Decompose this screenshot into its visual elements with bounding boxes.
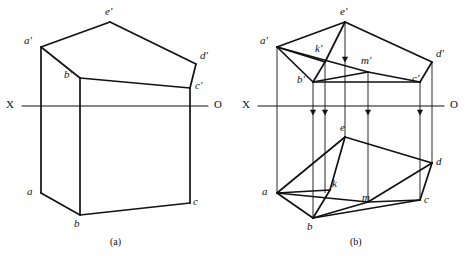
edge-bp-mp-b bbox=[313, 72, 368, 82]
vertex-label-c-b: c bbox=[424, 194, 429, 205]
vertex-label-c-prime-a: c' bbox=[195, 80, 202, 91]
arrowhead-proj-ep-e bbox=[342, 57, 347, 62]
edge-kp-bp-b bbox=[313, 62, 325, 82]
vertex-label-d-prime-b: d' bbox=[436, 48, 444, 59]
edge-a-b-a bbox=[41, 193, 80, 215]
edge-ep-dp-a bbox=[110, 22, 196, 64]
arrowhead-proj-kp-k bbox=[322, 110, 327, 115]
edge-ap-ep-a bbox=[41, 22, 110, 47]
vertex-label-a-a: a bbox=[27, 186, 33, 197]
vertex-label-e-b: e bbox=[340, 122, 345, 133]
edge-dp-cp-b bbox=[420, 62, 432, 82]
vertex-label-a-b: a bbox=[262, 186, 268, 197]
edge-group-a bbox=[41, 22, 196, 215]
vertex-label-b-b: b bbox=[307, 221, 313, 232]
edge-cp-bp-a bbox=[80, 78, 190, 88]
edge-m-d-b bbox=[368, 163, 432, 202]
arrowhead-proj-bp-b bbox=[310, 110, 315, 115]
technical-drawing-svg bbox=[0, 0, 469, 256]
vertex-label-k-prime-b: k' bbox=[315, 43, 322, 54]
arrowhead-proj-cp-c bbox=[417, 110, 422, 115]
vertex-label-m-prime-b: m' bbox=[361, 55, 371, 66]
axis-label-x-b: X bbox=[242, 99, 250, 110]
vertex-label-k-b: k bbox=[332, 178, 337, 189]
axis-label-o-a: O bbox=[214, 99, 222, 110]
vertex-label-e-prime-b: e' bbox=[340, 6, 347, 17]
figure-canvas: a'e'd'c'b'abc a'e'd'c'b'k'm'abcdekm X O … bbox=[0, 0, 469, 256]
vertex-label-b-prime-b: b' bbox=[297, 74, 305, 85]
vertex-label-d-b: d bbox=[436, 156, 442, 167]
axis-label-o-b: O bbox=[450, 99, 458, 110]
caption-a: (a) bbox=[110, 236, 121, 247]
axis-label-x-a: X bbox=[6, 99, 14, 110]
arrowhead-proj-mp-m bbox=[365, 110, 370, 115]
vertex-label-c-prime-b: c' bbox=[412, 73, 419, 84]
edge-bp-ap-a bbox=[41, 47, 80, 78]
edge-b-c-a bbox=[80, 203, 190, 215]
vertex-label-a-prime-a: a' bbox=[24, 35, 32, 46]
edge-ep-dp-b bbox=[345, 22, 432, 62]
vertex-label-b-prime-a: b' bbox=[64, 69, 72, 80]
vertex-label-e-prime-a: e' bbox=[105, 6, 112, 17]
vertex-label-a-prime-b: a' bbox=[260, 35, 268, 46]
edge-a-m-b bbox=[277, 193, 368, 202]
vertex-label-b-a: b bbox=[74, 218, 80, 229]
vertex-label-c-a: c bbox=[193, 196, 198, 207]
vertex-label-d-prime-a: d' bbox=[200, 50, 208, 61]
vertex-label-m-b: m bbox=[362, 192, 370, 203]
edge-group-b bbox=[277, 22, 432, 218]
edge-e-d-b bbox=[345, 137, 432, 163]
edge-a-k-b bbox=[277, 190, 330, 193]
caption-b: (b) bbox=[350, 236, 362, 247]
